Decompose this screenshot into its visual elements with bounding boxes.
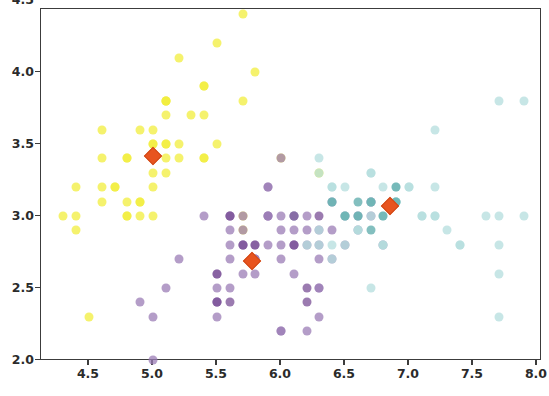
data-point: [264, 240, 273, 249]
data-point: [123, 197, 132, 206]
data-point: [123, 154, 132, 163]
data-point: [174, 255, 183, 264]
data-point: [328, 226, 337, 235]
data-point: [238, 269, 247, 278]
data-point: [328, 240, 337, 249]
data-point: [315, 168, 324, 177]
data-point: [225, 284, 234, 293]
data-point: [494, 212, 503, 221]
data-point: [136, 298, 145, 307]
data-point: [213, 312, 222, 321]
x-tickmark: [87, 360, 88, 365]
data-point: [85, 312, 94, 321]
data-point: [430, 212, 439, 221]
data-point: [200, 212, 209, 221]
data-point: [72, 183, 81, 192]
data-point: [187, 111, 196, 120]
data-point: [110, 183, 119, 192]
data-point: [379, 212, 388, 221]
data-point: [174, 140, 183, 149]
data-point: [494, 96, 503, 105]
data-point: [136, 197, 145, 206]
data-point: [302, 284, 311, 293]
data-point: [366, 168, 375, 177]
data-point: [315, 226, 324, 235]
data-point: [520, 212, 529, 221]
data-point: [353, 226, 362, 235]
data-point: [328, 183, 337, 192]
data-point: [200, 154, 209, 163]
data-point: [277, 226, 286, 235]
data-point: [149, 312, 158, 321]
data-point: [289, 240, 298, 249]
data-point: [315, 255, 324, 264]
data-point: [264, 183, 273, 192]
centroid-purple-cluster: [242, 251, 260, 269]
data-point: [149, 125, 158, 134]
data-point: [174, 154, 183, 163]
data-point: [277, 240, 286, 249]
data-point: [302, 212, 311, 221]
data-point: [149, 356, 158, 365]
data-point: [302, 240, 311, 249]
data-point: [123, 212, 132, 221]
data-point: [494, 240, 503, 249]
x-tickmark: [215, 360, 216, 365]
data-point: [366, 226, 375, 235]
data-point: [315, 212, 324, 221]
data-point: [174, 53, 183, 62]
data-point: [379, 183, 388, 192]
data-point: [149, 183, 158, 192]
data-point: [59, 212, 68, 221]
y-tick-label: 4.0: [0, 64, 34, 79]
data-point: [379, 240, 388, 249]
data-point: [238, 240, 247, 249]
data-point: [97, 125, 106, 134]
data-point: [238, 212, 247, 221]
data-point: [225, 255, 234, 264]
data-point: [366, 284, 375, 293]
x-tick-label: 6.5: [324, 366, 364, 381]
data-point: [161, 96, 170, 105]
data-point: [251, 68, 260, 77]
x-tick-label: 6.0: [260, 366, 300, 381]
data-point: [366, 212, 375, 221]
data-point: [277, 327, 286, 336]
y-tick-label: 3.0: [0, 208, 34, 223]
data-point: [136, 212, 145, 221]
data-point: [149, 168, 158, 177]
data-point: [341, 240, 350, 249]
data-point: [213, 140, 222, 149]
data-point: [161, 154, 170, 163]
data-point: [72, 226, 81, 235]
data-point: [417, 212, 426, 221]
data-point: [97, 183, 106, 192]
data-point: [213, 284, 222, 293]
data-point: [289, 269, 298, 278]
x-tick-label: 7.0: [388, 366, 428, 381]
x-tick-label: 4.5: [68, 366, 108, 381]
x-tickmark: [279, 360, 280, 365]
plot-area: [40, 8, 541, 360]
data-point: [161, 111, 170, 120]
data-point: [443, 226, 452, 235]
data-point: [315, 154, 324, 163]
data-point: [264, 212, 273, 221]
data-point: [161, 168, 170, 177]
data-point: [302, 327, 311, 336]
data-point: [366, 197, 375, 206]
data-point: [136, 125, 145, 134]
x-tickmark: [343, 360, 344, 365]
y-tick-label: 4.5: [0, 0, 34, 7]
x-tickmark: [535, 360, 536, 365]
data-point: [315, 240, 324, 249]
data-point: [97, 154, 106, 163]
data-point: [251, 269, 260, 278]
data-point: [481, 212, 490, 221]
data-point: [238, 10, 247, 19]
data-point: [520, 96, 529, 105]
data-point: [200, 111, 209, 120]
data-point: [430, 125, 439, 134]
data-point: [213, 298, 222, 307]
data-point: [97, 197, 106, 206]
